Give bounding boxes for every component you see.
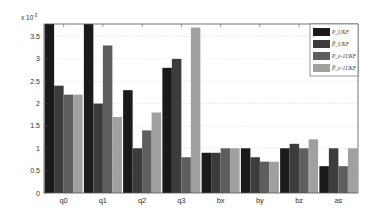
legend-swatch	[313, 52, 330, 60]
bar	[348, 148, 358, 193]
bar	[299, 148, 309, 193]
bar	[172, 59, 182, 193]
bar	[202, 153, 212, 193]
x-tick-label: q3	[177, 196, 185, 205]
x-tick-label: q0	[59, 196, 67, 205]
y-tick-label: 3.5	[30, 33, 40, 40]
y-tick-label: 1	[36, 145, 40, 152]
bar	[133, 148, 143, 193]
x-tick-label: bx	[217, 196, 225, 205]
bar	[221, 148, 231, 193]
bar	[152, 113, 162, 193]
bar	[309, 139, 319, 193]
bar	[329, 148, 339, 193]
bar	[260, 162, 270, 193]
bar	[290, 144, 300, 193]
bar	[73, 95, 83, 193]
y-axis: 00.511.522.533.5	[30, 33, 47, 196]
bar	[112, 117, 122, 193]
bar	[211, 153, 221, 193]
bar	[181, 157, 191, 193]
x-tick-label: q1	[99, 196, 107, 205]
y-tick-label: 1.5	[30, 122, 40, 129]
bar	[338, 166, 348, 193]
y-tick-label: 0.5	[30, 167, 40, 174]
bar	[250, 157, 260, 193]
legend-label: P_e-1UKF	[331, 53, 357, 59]
legend-label: P̂_e-1UKF	[331, 65, 357, 71]
x-tick-label: as	[334, 196, 342, 205]
bar	[319, 166, 329, 193]
y-tick-label: 2	[36, 100, 40, 107]
y-tick-label: 3	[36, 55, 40, 62]
legend-label: P̂_UKF	[331, 41, 350, 47]
bar	[241, 148, 251, 193]
legend-swatch	[313, 28, 330, 36]
y-tick-label: 2.5	[30, 78, 40, 85]
bar	[54, 86, 64, 193]
y-tick-label: 0	[36, 190, 40, 197]
bar	[191, 28, 201, 193]
legend-label: P_UKF	[331, 29, 350, 35]
bar	[45, 24, 55, 193]
x-tick-label: q2	[138, 196, 146, 205]
bar	[162, 68, 172, 193]
bar	[103, 45, 113, 193]
legend: P_UKFP̂_UKFP_e-1UKFP̂_e-1UKF	[310, 24, 358, 76]
bar	[93, 104, 103, 193]
bar-chart: 00.511.522.533.5 q0q1q2q3bxbybzas x 10-3…	[0, 0, 374, 216]
bar	[280, 148, 290, 193]
y-multiplier-label: x 10-3	[21, 13, 38, 21]
x-tick-label: bz	[295, 196, 303, 205]
bar	[84, 24, 94, 193]
bar	[123, 90, 133, 193]
bar	[142, 130, 152, 193]
bar	[64, 95, 74, 193]
x-tick-label: by	[256, 196, 264, 205]
bar	[269, 162, 279, 193]
legend-swatch	[313, 40, 330, 48]
bar	[230, 148, 240, 193]
legend-swatch	[313, 64, 330, 72]
